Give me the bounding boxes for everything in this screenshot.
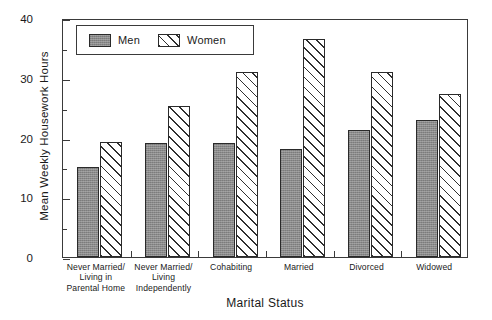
x-axis-tick: [266, 251, 267, 257]
x-axis-category-line: Independently: [124, 283, 204, 293]
bar-chart-figure: Mean Weekly Housework Hours 010203040 Ma…: [0, 0, 492, 320]
y-axis-tick: [63, 20, 70, 21]
x-axis-tick: [401, 251, 402, 257]
y-axis-tick: [63, 259, 70, 260]
y-axis-minor-tick: [63, 50, 67, 51]
bar-men: [213, 143, 235, 257]
x-axis-title: Marital Status: [60, 296, 470, 310]
x-axis-tick: [198, 251, 199, 257]
y-axis-tick-label: 40: [0, 13, 33, 25]
bar-men: [145, 143, 167, 257]
y-axis-tick: [63, 80, 70, 81]
bar-women: [168, 106, 190, 257]
bar-men: [77, 167, 99, 257]
chart-legend: Men Women: [76, 25, 254, 55]
legend-label-men: Men: [118, 34, 140, 46]
bar-men: [280, 149, 302, 257]
legend-swatch-women-icon: [158, 34, 180, 47]
bar-women: [371, 72, 393, 257]
legend-swatch-men-icon: [89, 34, 111, 47]
y-axis-minor-tick: [63, 110, 67, 111]
x-axis-category-line: Widowed: [394, 262, 474, 272]
y-axis-tick-label: 30: [0, 73, 33, 85]
legend-label-women: Women: [187, 34, 226, 46]
y-axis-minor-tick: [63, 229, 67, 230]
bar-men: [416, 120, 438, 257]
x-axis-tick: [334, 251, 335, 257]
y-axis-tick-label: 10: [0, 192, 33, 204]
x-axis-tick: [131, 251, 132, 257]
y-axis-tick-label: 20: [0, 133, 33, 145]
y-axis-minor-tick: [63, 169, 67, 170]
y-axis-tick: [63, 140, 70, 141]
bar-women: [100, 142, 122, 257]
y-axis-tick-label: 0: [0, 252, 33, 264]
bar-women: [303, 39, 325, 257]
x-axis-category-line: Living: [124, 272, 204, 282]
bar-women: [236, 72, 258, 257]
x-axis-category-label: Widowed: [394, 262, 474, 272]
legend-entry-women: Women: [158, 34, 226, 47]
y-axis-tick: [63, 199, 70, 200]
bar-women: [439, 94, 461, 257]
bar-men: [348, 130, 370, 257]
legend-entry-men: Men: [89, 34, 140, 47]
y-axis-title: Mean Weekly Housework Hours: [38, 16, 50, 256]
